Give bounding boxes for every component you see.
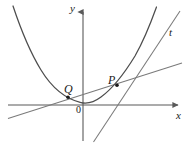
point-Q-marker: [66, 96, 70, 100]
secant-line: [8, 63, 182, 119]
tangent-line-t: [94, 11, 181, 142]
x-axis-label: x: [176, 110, 181, 121]
point-P-marker: [115, 83, 119, 87]
figure-canvas: [0, 0, 191, 148]
y-axis-label: y: [70, 3, 75, 14]
origin-label: 0: [76, 105, 81, 115]
point-p-label: P: [108, 74, 115, 86]
math-figure: y x 0 P Q t: [0, 0, 191, 148]
tangent-line-label: t: [169, 27, 172, 38]
point-q-label: Q: [64, 83, 73, 95]
parabola-curve: [13, 6, 157, 103]
